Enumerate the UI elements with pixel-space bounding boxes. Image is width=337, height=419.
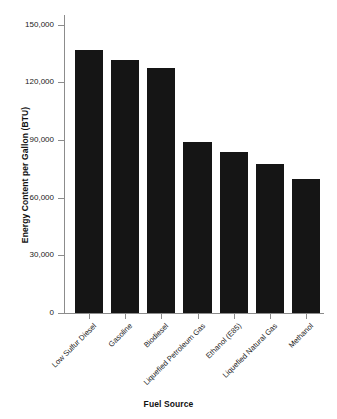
y-axis-line bbox=[64, 15, 65, 314]
y-axis-title: Energy Content per Gallon (BTU) bbox=[20, 75, 30, 275]
y-tick-mark bbox=[58, 198, 64, 199]
bar bbox=[292, 179, 320, 313]
x-tick-mark bbox=[89, 314, 90, 319]
x-tick-mark bbox=[234, 314, 235, 319]
x-tick-mark bbox=[125, 314, 126, 319]
y-tick-label: 90,000 bbox=[0, 135, 54, 144]
y-tick-label: 30,000 bbox=[0, 250, 54, 259]
y-tick-mark bbox=[58, 255, 64, 256]
x-axis-line bbox=[64, 313, 324, 314]
y-tick-mark bbox=[58, 140, 64, 141]
x-tick-mark bbox=[198, 314, 199, 319]
x-tick-mark bbox=[306, 314, 307, 319]
x-tick-mark bbox=[270, 314, 271, 319]
x-tick-mark bbox=[161, 314, 162, 319]
bar bbox=[220, 152, 248, 313]
y-tick-mark bbox=[58, 313, 64, 314]
bar bbox=[183, 142, 211, 313]
bar bbox=[111, 60, 139, 313]
bar bbox=[75, 50, 103, 313]
plot-area: 030,00060,00090,000120,000150,000 Low Su… bbox=[70, 15, 323, 313]
y-tick-label: 120,000 bbox=[0, 77, 54, 86]
bar bbox=[256, 164, 284, 313]
bar bbox=[147, 68, 175, 313]
y-tick-label: 0 bbox=[0, 308, 54, 317]
y-tick-mark bbox=[58, 82, 64, 83]
y-tick-mark bbox=[58, 25, 64, 26]
y-tick-label: 150,000 bbox=[0, 20, 54, 29]
bar-chart-figure: Energy Content per Gallon (BTU) Fuel Sou… bbox=[0, 0, 337, 419]
y-tick-label: 60,000 bbox=[0, 193, 54, 202]
